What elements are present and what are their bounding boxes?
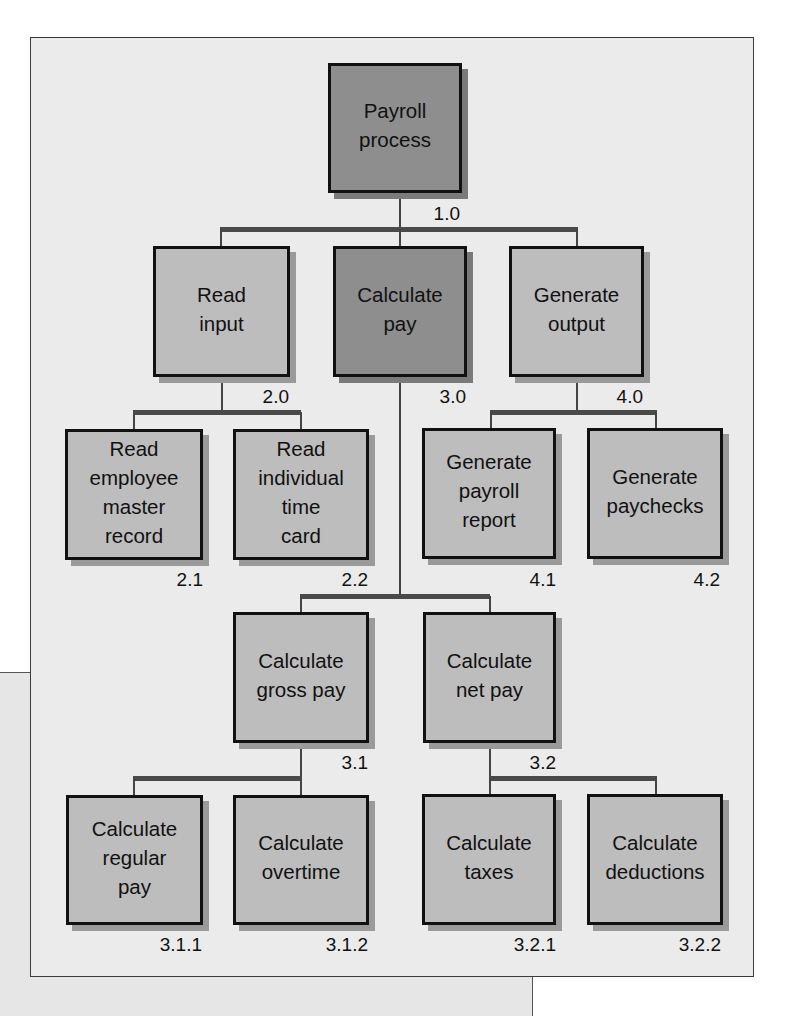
connector-3-0 [399,377,401,598]
node-generate-payroll-report: Generate payroll report [422,428,556,559]
node-read-individual-time-card: Read individual time card [233,429,369,560]
node-number: 3.1.1 [142,934,202,956]
diagram-canvas: Payroll process 1.0 Read input 2.0 Calcu… [0,0,786,1016]
node-payroll-process: Payroll process [328,63,462,193]
node-calculate-taxes: Calculate taxes [422,794,556,925]
connector-to-4-2 [655,412,657,429]
node-number: 3.2.1 [496,934,556,956]
node-number: 4.2 [660,569,720,591]
node-calculate-gross-pay: Calculate gross pay [233,612,369,743]
bar-level-4-0 [490,410,657,415]
connector-to-3-2-1 [489,778,491,795]
bar-level-3-0 [300,594,490,599]
node-calculate-net-pay: Calculate net pay [423,612,556,743]
node-number: 2.2 [308,569,368,591]
bar-level-2-0 [133,410,301,415]
connector-to-3-1-2 [300,778,302,796]
connector-to-3-0 [399,229,401,247]
connector-3-1 [300,743,302,780]
node-number: 3.0 [406,386,466,408]
connector-to-4-0 [576,229,578,247]
node-generate-paychecks: Generate paychecks [587,428,723,559]
node-number: 2.0 [229,386,289,408]
node-calculate-deductions: Calculate deductions [587,794,723,925]
connector-to-3-2-2 [655,778,657,795]
connector-to-2-1 [133,412,135,429]
node-number: 1.0 [400,203,460,225]
node-number: 4.0 [583,386,643,408]
connector-to-3-2 [489,596,491,613]
node-read-input: Read input [153,246,290,377]
connector-to-3-1 [300,596,302,613]
node-number: 3.1 [308,752,368,774]
bar-level-3-2 [489,776,657,781]
connector-4-0 [576,377,578,413]
node-calculate-regular-pay: Calculate regular pay [66,795,203,925]
node-number: 3.2.2 [661,934,721,956]
connector-2-0 [221,377,223,413]
connector-to-2-0 [220,229,222,247]
node-number: 3.1.2 [308,934,368,956]
node-generate-output: Generate output [509,246,644,377]
connector-3-2 [489,743,491,780]
node-number: 3.2 [496,752,556,774]
node-calculate-pay: Calculate pay [333,246,467,377]
node-number: 2.1 [143,569,203,591]
node-read-employee-master-record: Read employee master record [65,429,203,560]
bar-level-3-1 [133,776,302,781]
node-number: 4.1 [496,569,556,591]
node-calculate-overtime: Calculate overtime [233,795,369,925]
connector-to-2-2 [300,412,302,429]
connector-to-3-1-1 [133,778,135,796]
connector-to-4-1 [490,412,492,429]
